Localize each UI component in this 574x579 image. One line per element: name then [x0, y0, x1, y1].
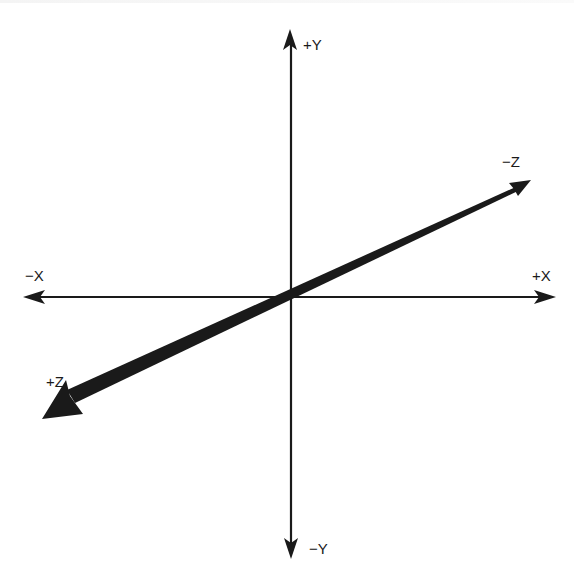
z-axis — [42, 180, 531, 419]
label-minus-y: −Y — [309, 541, 328, 556]
label-minus-z: −Z — [502, 154, 520, 169]
label-minus-x: −X — [25, 268, 44, 283]
label-plus-z: +Z — [46, 374, 64, 389]
z-axis-shaft — [67, 186, 520, 403]
coordinate-axes-diagram — [0, 0, 574, 579]
label-plus-x: +X — [532, 268, 551, 283]
label-plus-y: +Y — [303, 37, 322, 52]
